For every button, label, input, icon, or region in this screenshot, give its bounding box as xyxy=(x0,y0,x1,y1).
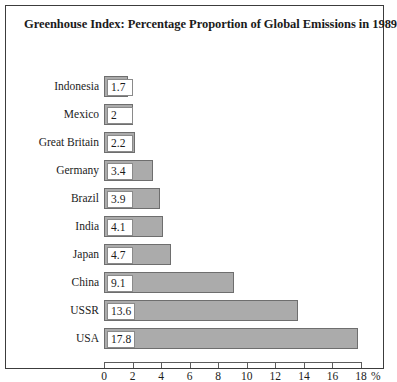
x-axis-tick-label: 4 xyxy=(158,370,164,382)
category-label: Great Britain xyxy=(0,132,99,153)
x-axis-tick xyxy=(161,363,162,368)
bar-value-label: 2 xyxy=(107,107,133,124)
bar: 3.4 xyxy=(104,160,153,181)
x-axis-unit-label: % xyxy=(371,370,381,382)
bar-value-label: 3.9 xyxy=(107,191,133,208)
bar-row: USA17.8 xyxy=(6,328,385,349)
category-label: Mexico xyxy=(0,104,99,125)
x-axis-tick-label: 14 xyxy=(298,370,310,382)
chart-frame: Greenhouse Index: Percentage Proportion … xyxy=(5,5,384,369)
bar: 9.1 xyxy=(104,272,234,293)
x-axis-tick xyxy=(332,363,333,368)
bar-value-label: 3.4 xyxy=(107,163,133,180)
bar-row: Mexico2 xyxy=(6,104,385,125)
bar-row: Japan4.7 xyxy=(6,244,385,265)
bar: 4.1 xyxy=(104,216,163,237)
x-axis-tick xyxy=(190,363,191,368)
bar-value-label: 4.1 xyxy=(107,219,133,236)
category-label: Indonesia xyxy=(0,76,99,97)
plot-area: Indonesia1.7Mexico2Great Britain2.2Germa… xyxy=(6,6,385,370)
category-label: USA xyxy=(0,328,99,349)
bar-row: India4.1 xyxy=(6,216,385,237)
x-axis-line xyxy=(104,362,362,363)
category-label: Germany xyxy=(0,160,99,181)
bar-value-label: 2.2 xyxy=(107,135,133,152)
bar: 2 xyxy=(104,104,133,125)
bar-row: Brazil3.9 xyxy=(6,188,385,209)
x-axis-tick-label: 6 xyxy=(187,370,193,382)
bar: 3.9 xyxy=(104,188,160,209)
bar-row: China9.1 xyxy=(6,272,385,293)
bar-row: Indonesia1.7 xyxy=(6,76,385,97)
bar: 17.8 xyxy=(104,328,358,349)
category-label: Japan xyxy=(0,244,99,265)
x-axis-tick-label: 18 xyxy=(355,370,367,382)
x-axis-tick xyxy=(304,363,305,368)
x-axis-tick xyxy=(133,363,134,368)
bar-value-label: 9.1 xyxy=(107,275,133,292)
category-label: China xyxy=(0,272,99,293)
bar-value-label: 4.7 xyxy=(107,247,133,264)
x-axis-tick-label: 12 xyxy=(270,370,282,382)
category-label: Brazil xyxy=(0,188,99,209)
bar-row: Great Britain2.2 xyxy=(6,132,385,153)
x-axis-tick-label: 10 xyxy=(241,370,253,382)
bar-value-label: 13.6 xyxy=(107,303,135,320)
category-label: India xyxy=(0,216,99,237)
x-axis-tick xyxy=(104,363,105,368)
bar: 2.2 xyxy=(104,132,135,153)
category-label: USSR xyxy=(0,300,99,321)
bar-row: Germany3.4 xyxy=(6,160,385,181)
x-axis-tick-label: 16 xyxy=(327,370,339,382)
bar-row: USSR13.6 xyxy=(6,300,385,321)
bar: 13.6 xyxy=(104,300,298,321)
bar-value-label: 17.8 xyxy=(107,331,135,348)
x-axis-tick xyxy=(275,363,276,368)
bar: 1.7 xyxy=(104,76,128,97)
x-axis-tick xyxy=(361,363,362,368)
x-axis-tick xyxy=(218,363,219,368)
bar-value-label: 1.7 xyxy=(107,79,133,96)
x-axis-tick-label: 8 xyxy=(215,370,221,382)
x-axis-tick-label: 0 xyxy=(101,370,107,382)
x-axis-tick-label: 2 xyxy=(130,370,136,382)
bar: 4.7 xyxy=(104,244,171,265)
x-axis-tick xyxy=(247,363,248,368)
